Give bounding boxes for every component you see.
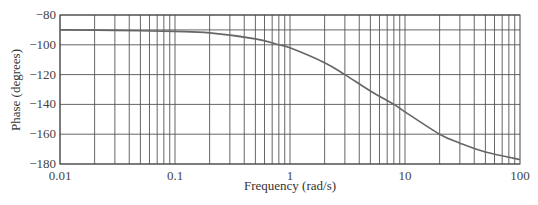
phase-plot: −80−100−120−140−160−180 0.010.1110100 Fr… xyxy=(0,0,538,205)
x-axis-label: Frequency (rad/s) xyxy=(244,178,336,193)
y-tick-label: −120 xyxy=(29,67,56,82)
grid-lines xyxy=(60,15,520,164)
y-tick-label: −100 xyxy=(29,37,56,52)
x-tick-label: 0.1 xyxy=(167,168,183,183)
y-tick-label: −140 xyxy=(29,96,56,111)
y-tick-label: −80 xyxy=(36,7,56,22)
y-tick-label: −160 xyxy=(29,126,56,141)
x-tick-label: 10 xyxy=(399,168,412,183)
x-tick-label: 0.01 xyxy=(49,168,72,183)
y-axis-label: Phase (degrees) xyxy=(8,49,23,131)
x-tick-label: 100 xyxy=(510,168,530,183)
y-axis-ticks: −80−100−120−140−160−180 xyxy=(29,7,56,171)
